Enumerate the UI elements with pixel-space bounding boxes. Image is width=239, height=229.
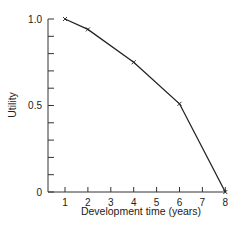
x-marker <box>132 60 136 64</box>
y-tick-label: 0.5 <box>28 100 42 111</box>
axis-ticks <box>48 19 225 192</box>
x-tick-label: 8 <box>223 197 229 208</box>
data-point-markers <box>63 17 227 194</box>
y-tick-label: 1.0 <box>28 14 42 25</box>
utility-chart: 1234567800.51.0 Development time (years)… <box>0 0 239 229</box>
x-axis-title: Development time (years) <box>81 205 201 217</box>
utility-curve <box>65 19 225 192</box>
axes <box>48 19 226 192</box>
tick-labels: 1234567800.51.0 <box>28 14 228 209</box>
x-tick-label: 1 <box>62 197 68 208</box>
y-axis-title: Utility <box>6 91 18 117</box>
y-tick-label: 0 <box>36 187 42 198</box>
